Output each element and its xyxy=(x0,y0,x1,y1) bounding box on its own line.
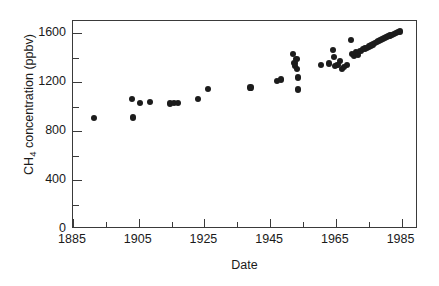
ch4-concentration-scatter-figure: CH4 concentration (ppbv) 040080012001600… xyxy=(0,0,439,286)
y-axis-tick-label: 800 xyxy=(20,124,66,137)
x-axis-tick-label: 1885 xyxy=(42,232,102,246)
x-axis-major-tick xyxy=(204,219,205,227)
data-point xyxy=(294,66,300,72)
data-point xyxy=(330,47,336,53)
data-point xyxy=(247,84,253,90)
data-point xyxy=(344,62,350,68)
x-axis-major-tick xyxy=(270,219,271,227)
data-point xyxy=(293,56,299,62)
data-point xyxy=(295,86,301,92)
x-axis-minor-tick xyxy=(237,222,238,227)
x-axis-minor-tick xyxy=(303,222,304,227)
y-axis-tick-label: 1200 xyxy=(20,75,66,88)
y-axis-minor-tick xyxy=(73,205,79,206)
y-axis-major-tick xyxy=(73,33,82,34)
y-axis-minor-tick xyxy=(73,107,79,108)
data-point xyxy=(175,100,181,106)
data-point xyxy=(278,76,284,82)
data-point xyxy=(195,96,201,102)
data-point xyxy=(137,100,143,106)
data-point xyxy=(397,28,403,34)
y-axis-minor-tick xyxy=(73,156,79,157)
data-point xyxy=(348,37,354,43)
data-point xyxy=(318,62,324,68)
y-axis-tick-labels: 040080012001600 xyxy=(18,20,66,228)
data-point xyxy=(205,86,211,92)
x-axis-tick-label: 1965 xyxy=(305,232,365,246)
y-axis-tick-label: 1600 xyxy=(20,26,66,39)
x-axis-minor-tick xyxy=(106,222,107,227)
x-axis-tick-label: 1905 xyxy=(108,232,168,246)
data-point xyxy=(129,96,135,102)
data-point xyxy=(130,114,136,120)
x-axis-tick-label: 1985 xyxy=(371,232,431,246)
x-axis-minor-tick xyxy=(369,222,370,227)
x-axis-major-tick xyxy=(73,219,74,227)
x-axis-title: Date xyxy=(72,258,417,272)
y-axis-major-tick xyxy=(73,82,82,83)
x-axis-tick-labels: 188519051925194519651985 xyxy=(72,232,417,252)
plot-frame xyxy=(72,20,417,228)
data-point xyxy=(295,74,301,80)
x-axis-major-tick xyxy=(402,219,403,227)
y-axis-tick-label: 400 xyxy=(20,173,66,186)
x-axis-tick-label: 1925 xyxy=(173,232,233,246)
x-axis-major-tick xyxy=(336,219,337,227)
y-axis-major-tick xyxy=(73,180,82,181)
x-axis-minor-tick xyxy=(172,222,173,227)
y-axis-minor-tick xyxy=(73,58,79,59)
data-point xyxy=(91,115,97,121)
x-axis-major-tick xyxy=(139,219,140,227)
plot-area xyxy=(73,21,416,227)
data-point xyxy=(147,99,153,105)
y-axis-major-tick xyxy=(73,131,82,132)
x-axis-tick-label: 1945 xyxy=(239,232,299,246)
